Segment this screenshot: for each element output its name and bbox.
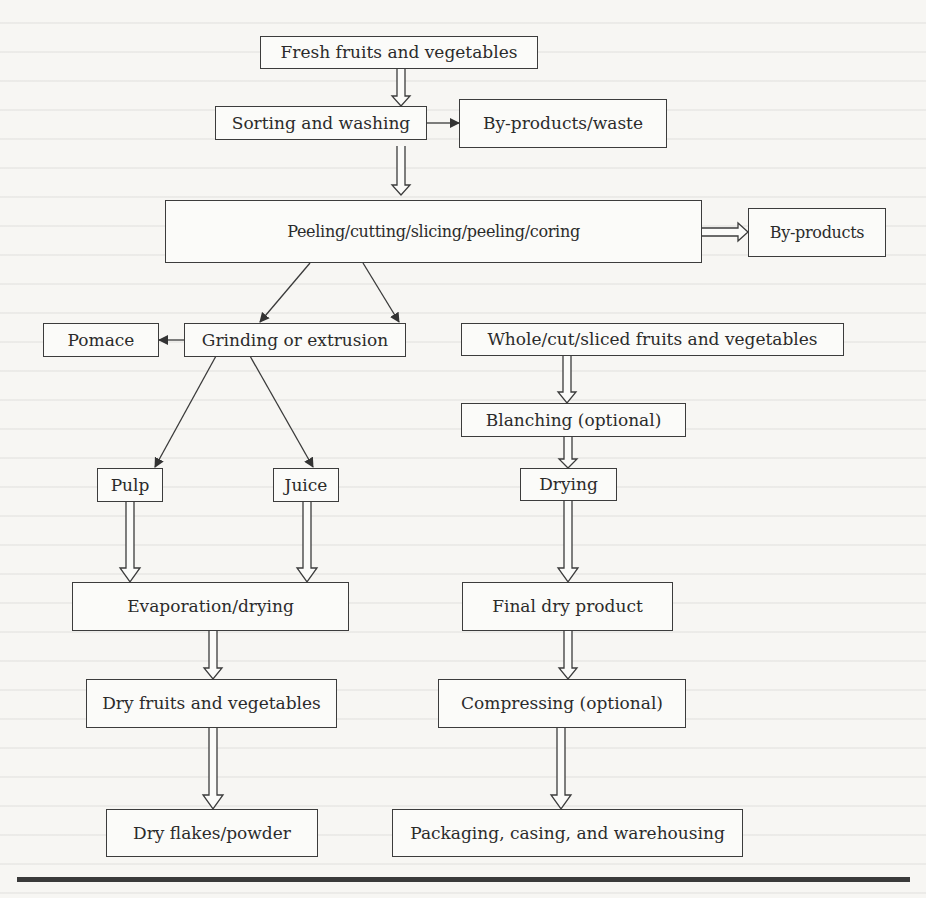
arrow-juice-to-evaporation <box>297 502 317 582</box>
node-byproducts: By-products <box>748 208 886 257</box>
arrow-peeling-to-grinding <box>260 263 310 322</box>
node-label: Pulp <box>111 477 150 494</box>
node-byproducts-waste: By-products/waste <box>459 99 667 148</box>
node-label: Dry fruits and vegetables <box>102 695 321 712</box>
node-juice: Juice <box>273 468 339 502</box>
node-label: Dry flakes/powder <box>133 825 291 842</box>
node-pulp: Pulp <box>97 468 163 502</box>
arrow-pulp-to-evaporation <box>120 502 140 582</box>
node-label: Final dry product <box>492 598 643 615</box>
node-dry-flakes-powder: Dry flakes/powder <box>106 809 318 857</box>
arrow-evaporation-to-dry-fv <box>204 631 222 679</box>
arrow-dry-fv-to-dry-flakes <box>203 728 223 809</box>
arrow-sorting-to-peeling <box>392 146 410 195</box>
node-peeling-cutting: Peeling/cutting/slicing/peeling/coring <box>165 200 702 263</box>
node-drying: Drying <box>520 468 617 501</box>
node-label: Compressing (optional) <box>461 695 663 712</box>
node-label: Grinding or extrusion <box>202 332 388 349</box>
node-dry-fruits-vegetables: Dry fruits and vegetables <box>86 679 337 728</box>
node-label: Juice <box>285 477 328 494</box>
node-sorting-washing: Sorting and washing <box>215 106 427 140</box>
arrow-peeling-to-byproducts <box>702 223 748 241</box>
node-label: Drying <box>539 476 598 493</box>
node-final-dry-product: Final dry product <box>462 582 673 631</box>
node-label: Whole/cut/sliced fruits and vegetables <box>487 331 817 348</box>
node-fresh-fruits-vegetables: Fresh fruits and vegetables <box>260 36 538 69</box>
node-compressing: Compressing (optional) <box>438 679 686 728</box>
arrow-drying-to-final <box>558 501 578 582</box>
arrow-final-to-compressing <box>559 631 577 679</box>
node-grinding-extrusion: Grinding or extrusion <box>184 323 406 357</box>
node-label: Evaporation/drying <box>127 598 294 615</box>
node-label: Packaging, casing, and warehousing <box>410 825 725 842</box>
node-label: Peeling/cutting/slicing/peeling/coring <box>287 224 580 240</box>
node-label: Fresh fruits and vegetables <box>281 44 518 61</box>
node-label: Pomace <box>68 332 135 349</box>
arrow-compressing-to-packaging <box>551 728 571 809</box>
arrow-grinding-to-pulp <box>155 356 216 467</box>
node-blanching: Blanching (optional) <box>461 403 686 437</box>
arrow-fresh-to-sorting <box>392 68 410 106</box>
node-label: Sorting and washing <box>232 115 411 132</box>
node-packaging-warehousing: Packaging, casing, and warehousing <box>392 809 743 857</box>
arrow-peeling-to-whole <box>363 263 399 322</box>
node-label: By-products <box>770 225 865 241</box>
arrow-grinding-to-juice <box>250 356 313 467</box>
bottom-rule-divider <box>17 877 910 882</box>
arrow-blanching-to-drying <box>559 437 577 468</box>
arrow-whole-to-blanching <box>558 355 576 403</box>
node-label: Blanching (optional) <box>486 412 662 429</box>
node-label: By-products/waste <box>483 115 643 132</box>
node-pomace: Pomace <box>43 323 159 357</box>
node-evaporation-drying: Evaporation/drying <box>72 582 349 631</box>
node-whole-cut-sliced: Whole/cut/sliced fruits and vegetables <box>461 323 844 356</box>
